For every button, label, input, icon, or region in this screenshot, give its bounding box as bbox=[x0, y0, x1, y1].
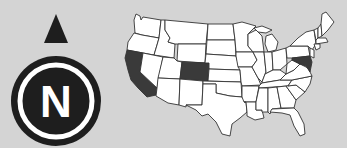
state-mississippi bbox=[256, 88, 268, 112]
figure: N bbox=[0, 0, 347, 148]
state-kansas bbox=[208, 69, 241, 82]
state-new-jersey bbox=[310, 48, 314, 58]
state-wyoming bbox=[177, 44, 206, 63]
state-ohio bbox=[272, 48, 287, 70]
state-connecticut bbox=[314, 44, 320, 50]
north-arrow-icon bbox=[44, 14, 68, 43]
state-south-dakota bbox=[206, 40, 236, 56]
state-north-dakota bbox=[207, 24, 235, 40]
north-compass-icon: N bbox=[11, 14, 101, 146]
state-wisconsin bbox=[248, 30, 264, 52]
state-maine bbox=[321, 12, 334, 36]
compass-letter: N bbox=[40, 77, 72, 126]
compass-and-map: N bbox=[0, 0, 347, 148]
state-new-mexico bbox=[179, 79, 203, 107]
state-michigan bbox=[265, 34, 278, 52]
state-massachusetts bbox=[316, 38, 328, 44]
state-montana bbox=[165, 20, 208, 44]
state-nebraska bbox=[205, 54, 240, 70]
us-map bbox=[125, 12, 334, 136]
state-colorado bbox=[180, 62, 209, 81]
state-florida bbox=[270, 108, 305, 136]
state-arizona bbox=[156, 78, 180, 105]
